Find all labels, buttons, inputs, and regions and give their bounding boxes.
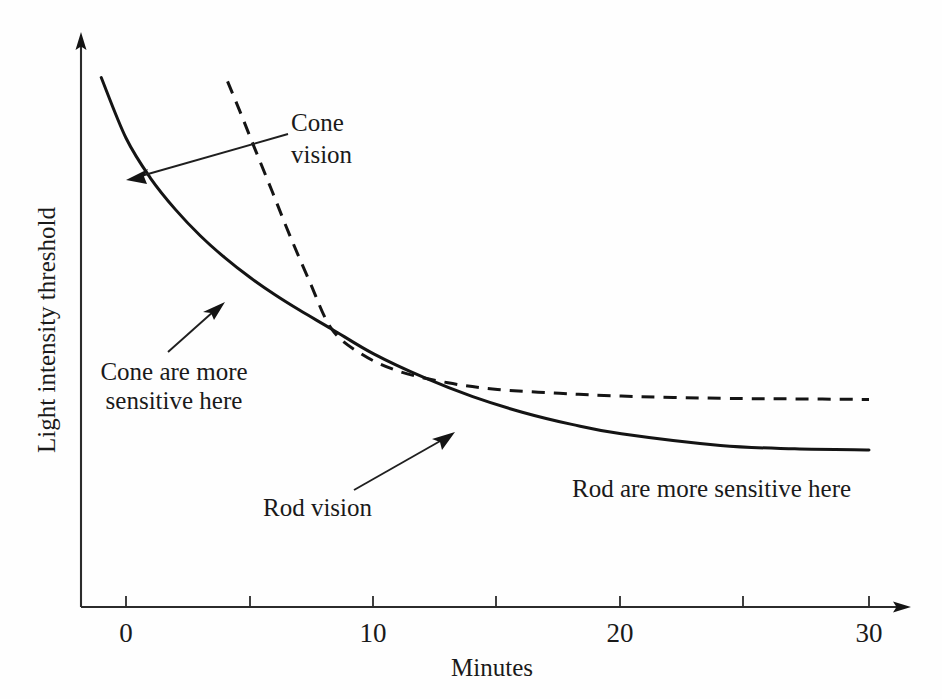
chart-canvas: 0 10 20 30 Minutes Light intensity thres… <box>0 0 942 699</box>
x-tick-label-10: 10 <box>360 618 387 648</box>
cone-vision-label-line1: Cone <box>291 109 344 136</box>
cone-vision-label-line2: vision <box>291 141 353 168</box>
rod-vision-label: Rod vision <box>263 494 373 521</box>
cone-vision-leader <box>141 134 288 176</box>
annotation-cone-vision: Cone vision <box>126 109 353 184</box>
cone-sensitive-label-line1: Cone are more <box>100 358 247 385</box>
annotation-cone-sensitive: Cone are more sensitive here <box>100 302 247 414</box>
rod-vision-leader <box>354 440 442 490</box>
x-tick-label-20: 20 <box>607 618 634 648</box>
axes-group: 0 10 20 30 Minutes Light intensity thres… <box>33 32 911 681</box>
rod-vision-arrow-icon <box>432 432 455 450</box>
x-axis-title: Minutes <box>451 654 533 681</box>
cone-vision-arrow-icon <box>126 169 148 184</box>
x-tick-label-30: 30 <box>856 618 883 648</box>
annotation-rod-sensitive: Rod are more sensitive here <box>572 475 851 502</box>
cone-sensitive-label-line2: sensitive here <box>106 387 243 414</box>
rod-sensitive-label: Rod are more sensitive here <box>572 475 851 502</box>
cone-sensitive-leader <box>168 311 214 352</box>
annotation-rod-vision: Rod vision <box>263 432 455 521</box>
y-axis-title: Light intensity threshold <box>33 207 60 453</box>
x-tick-label-0: 0 <box>119 618 133 648</box>
dark-adaptation-chart: 0 10 20 30 Minutes Light intensity thres… <box>0 0 942 699</box>
